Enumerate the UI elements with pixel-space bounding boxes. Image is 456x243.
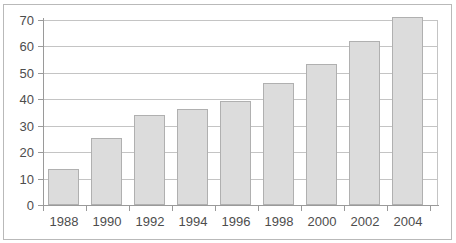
y-axis-tick-label-40: 40 <box>0 93 34 106</box>
x-axis-label-2002: 2002 <box>342 215 388 229</box>
x-axis-label-2004: 2004 <box>385 215 431 229</box>
x-axis-label-1988: 1988 <box>41 215 87 229</box>
bar-chart-figure: 70 60 50 40 30 20 10 0 <box>0 0 456 243</box>
y-axis-tick-label-10: 10 <box>0 173 34 186</box>
x-axis-label-1994: 1994 <box>170 215 216 229</box>
x-axis-line <box>38 205 439 206</box>
y-axis-tick-label-20: 20 <box>0 146 34 159</box>
x-axis-tick-mark-0 <box>43 205 44 211</box>
x-axis-label-2000: 2000 <box>299 215 345 229</box>
x-axis-tick-mark-1 <box>86 205 87 211</box>
plot-area <box>43 20 437 205</box>
x-axis-tick-mark-7 <box>344 205 345 211</box>
bar-1996 <box>220 101 251 205</box>
x-axis-tick-mark-5 <box>258 205 259 211</box>
x-axis-tick-mark-3 <box>172 205 173 211</box>
y-axis-tick-label-50: 50 <box>0 67 34 80</box>
x-axis-label-1990: 1990 <box>84 215 130 229</box>
bar-1994 <box>177 109 208 205</box>
x-axis-tick-mark-9 <box>430 205 431 211</box>
y-axis-tick-label-70: 70 <box>0 14 34 27</box>
x-axis-tick-mark-8 <box>387 205 388 211</box>
x-axis-tick-mark-4 <box>215 205 216 211</box>
y-axis-tick-label-60: 60 <box>0 40 34 53</box>
bar-2000 <box>306 64 337 205</box>
y-axis-tick-label-0: 0 <box>0 199 34 212</box>
bar-1998 <box>263 83 294 205</box>
x-axis-label-1998: 1998 <box>256 215 302 229</box>
plot-right-border <box>437 20 438 206</box>
bar-2002 <box>349 41 380 205</box>
gridline-70 <box>43 20 437 21</box>
y-axis-tick-label-30: 30 <box>0 120 34 133</box>
bar-1988 <box>48 169 79 205</box>
y-axis-line <box>43 18 44 207</box>
bar-1992 <box>134 115 165 205</box>
x-axis-tick-mark-6 <box>301 205 302 211</box>
x-axis-tick-mark-2 <box>129 205 130 211</box>
x-axis-label-1992: 1992 <box>127 215 173 229</box>
bar-1990 <box>91 138 122 205</box>
x-axis-label-1996: 1996 <box>213 215 259 229</box>
bar-2004 <box>392 17 423 205</box>
